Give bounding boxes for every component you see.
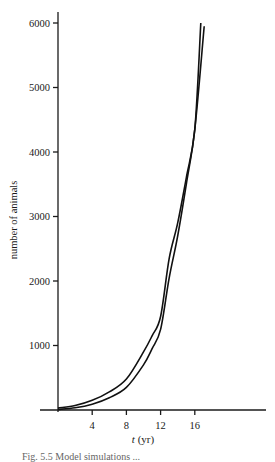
tick-labels: 481216100020003000400050006000 <box>29 18 200 432</box>
y-tick-label: 2000 <box>29 276 50 287</box>
figure-caption: Fig. 5.5 Model simulations ... <box>22 451 140 462</box>
y-tick-label: 6000 <box>29 18 50 29</box>
y-tick-label: 4000 <box>29 147 50 158</box>
x-tick-label: 16 <box>190 420 201 431</box>
x-axis-unit: (yr) <box>135 433 154 445</box>
series-curve-2 <box>58 26 204 409</box>
axes <box>40 12 266 415</box>
x-tick-label: 8 <box>124 420 129 431</box>
y-tick-label: 1000 <box>29 340 50 351</box>
data-curves <box>58 23 204 409</box>
y-tick-label: 3000 <box>29 211 50 222</box>
x-tick-label: 4 <box>90 420 96 431</box>
x-tick-label: 12 <box>155 420 166 431</box>
y-tick-label: 5000 <box>29 82 50 93</box>
x-axis-label: t (yr) <box>132 433 154 445</box>
series-curve-1 <box>58 23 201 408</box>
y-axis-label: number of animals <box>8 181 19 260</box>
